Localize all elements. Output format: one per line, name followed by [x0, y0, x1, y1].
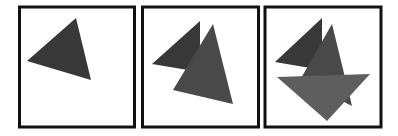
triangle-panels-figure — [0, 0, 398, 136]
panel-3 — [265, 7, 381, 127]
panel-1 — [20, 7, 135, 127]
panel-2 — [143, 7, 259, 127]
